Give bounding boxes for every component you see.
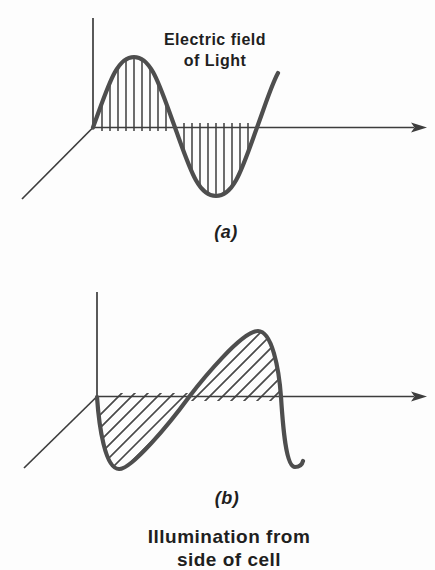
- panel-b: [24, 292, 427, 485]
- panel-a-title-line2: of Light: [164, 50, 266, 71]
- waveform-diagrams: [0, 0, 435, 570]
- panel-b-caption-line2: side of cell: [148, 548, 311, 570]
- panel-b-depth-axis: [24, 397, 97, 469]
- panel-b-label: (b): [215, 487, 239, 509]
- panel-b-caption: Illumination from side of cell: [148, 525, 311, 570]
- panel-a-title-line1: Electric field: [164, 29, 266, 50]
- panel-a-depth-axis: [22, 128, 93, 200]
- panel-a-label: (a): [214, 221, 238, 243]
- figure-canvas: Electric field of Light (a) (b) Illumina…: [0, 0, 435, 570]
- panel-b-caption-line1: Illumination from: [148, 525, 311, 548]
- panel-a-sine-wave: [93, 57, 278, 196]
- panel-a-title: Electric field of Light: [164, 29, 266, 71]
- panel-b-diagonal-hatching: [30, 300, 371, 485]
